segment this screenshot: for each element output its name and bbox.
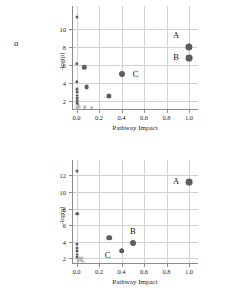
y-tick-2 (69, 225, 72, 226)
data-point-3 (106, 235, 112, 241)
scatter-plot-a: 2468100.00.20.40.60.81.0-log(p)Pathway I… (72, 14, 204, 110)
gridline-horizontal-4 (72, 29, 198, 30)
data-point-label-c: C (105, 250, 111, 260)
y-tick-3 (69, 47, 72, 48)
y-tick-label-5: 12 (42, 172, 66, 179)
data-point-minor-5 (76, 260, 79, 263)
x-tick-label-3: 0.6 (140, 268, 148, 275)
y-tick-label-0: 2 (42, 97, 66, 104)
x-tick-4 (167, 110, 168, 113)
data-point-minor-7 (76, 107, 79, 110)
x-tick-2 (122, 110, 123, 113)
data-point-label-b: B (130, 226, 136, 236)
data-point-label-a: A (173, 176, 179, 186)
panel-b: b 246810120.00.20.40.60.81.0-log(p)Pathw… (0, 154, 245, 308)
x-tick-5 (189, 264, 190, 267)
gridline-horizontal-0 (72, 101, 198, 102)
x-tick-3 (144, 264, 145, 267)
data-point-a (186, 179, 193, 186)
x-tick-label-0: 0.0 (72, 268, 80, 275)
gridline-vertical-4 (167, 6, 168, 110)
x-tick-label-2: 0.4 (117, 268, 125, 275)
x-tick-0 (77, 110, 78, 113)
data-point-label-b: B (173, 52, 179, 62)
x-tick-2 (122, 264, 123, 267)
data-point-10 (76, 256, 79, 259)
x-tick-label-4: 0.8 (162, 114, 170, 121)
gridline-vertical-3 (144, 6, 145, 110)
x-tick-label-1: 0.2 (95, 114, 103, 121)
data-point-10 (76, 90, 79, 93)
data-point-label-c: C (133, 69, 139, 79)
y-tick-1 (69, 83, 72, 84)
gridline-horizontal-0 (72, 258, 198, 259)
y-tick-1 (69, 242, 72, 243)
x-tick-label-1: 0.2 (95, 268, 103, 275)
x-tick-3 (144, 110, 145, 113)
data-point-6 (76, 15, 79, 18)
y-axis-label-b: -log(p) (58, 181, 65, 251)
data-point-minor-6 (90, 106, 94, 110)
x-tick-label-4: 0.8 (162, 268, 170, 275)
panel-a: a 2468100.00.20.40.60.81.0-log(p)Pathway… (0, 0, 245, 154)
y-tick-0 (69, 258, 72, 259)
x-tick-label-5: 1.0 (185, 114, 193, 121)
gridline-horizontal-5 (72, 175, 198, 176)
data-point-4 (84, 85, 89, 90)
x-tick-label-5: 1.0 (185, 268, 193, 275)
y-axis-label-a: -log(p) (58, 27, 65, 97)
y-tick-4 (69, 29, 72, 30)
x-tick-5 (189, 110, 190, 113)
gridline-horizontal-1 (72, 83, 198, 84)
y-axis-line-b (72, 160, 73, 264)
gridline-horizontal-2 (72, 65, 198, 66)
data-point-5 (75, 212, 79, 216)
data-point-c (119, 71, 125, 77)
x-axis-label-b: Pathway Impact (112, 278, 157, 286)
x-tick-label-3: 0.6 (140, 114, 148, 121)
x-axis-label-a: Pathway Impact (112, 124, 157, 132)
gridline-horizontal-3 (72, 47, 198, 48)
x-tick-label-0: 0.0 (72, 114, 80, 121)
y-axis-line-a (72, 6, 73, 110)
x-tick-4 (167, 264, 168, 267)
y-tick-3 (69, 209, 72, 210)
scatter-plot-b: 246810120.00.20.40.60.81.0-log(p)Pathway… (72, 168, 204, 264)
data-point-b (130, 240, 136, 246)
plot-area-b (72, 168, 204, 264)
x-tick-1 (99, 110, 100, 113)
y-tick-label-0: 2 (42, 255, 66, 262)
panel-a-letter: a (14, 38, 19, 48)
data-point-4 (76, 170, 79, 173)
data-point-minor-6 (82, 260, 85, 263)
gridline-vertical-1 (99, 6, 100, 110)
x-tick-0 (77, 264, 78, 267)
x-tick-1 (99, 264, 100, 267)
data-point-minor-5 (83, 105, 87, 109)
gridline-vertical-2 (122, 6, 123, 110)
y-tick-5 (69, 175, 72, 176)
x-tick-label-2: 0.4 (117, 114, 125, 121)
y-tick-2 (69, 65, 72, 66)
gridline-horizontal-3 (72, 209, 198, 210)
y-tick-4 (69, 192, 72, 193)
y-tick-0 (69, 101, 72, 102)
data-point-14 (76, 102, 79, 105)
gridline-horizontal-4 (72, 192, 198, 193)
data-point-c (119, 248, 125, 254)
x-axis-line-b (72, 263, 198, 264)
data-point-b (186, 54, 193, 61)
data-point-label-a: A (173, 30, 179, 40)
